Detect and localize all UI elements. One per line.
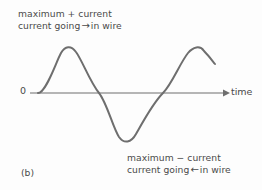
annotation-positive-line2: current going→in wire (18, 20, 122, 32)
sine-curve (38, 47, 215, 141)
annotation-negative-line2-prefix: current going (127, 164, 189, 175)
annotation-positive-line1: maximum + current (18, 8, 122, 20)
left-arrow-icon: ← (189, 164, 199, 176)
annotation-positive-current: maximum + current current going→in wire (18, 8, 122, 32)
annotation-positive-line2-prefix: current going (18, 20, 80, 31)
annotation-negative-line2: current going←in wire (127, 164, 231, 176)
annotation-negative-line2-suffix: in wire (200, 164, 231, 175)
x-axis-arrowhead (223, 89, 230, 96)
annotation-positive-line2-suffix: in wire (91, 20, 122, 31)
panel-label: (b) (21, 167, 34, 178)
annotation-negative-current: maximum − current current going←in wire (127, 152, 231, 176)
axis-x-label: time (231, 86, 252, 97)
right-arrow-icon: → (80, 20, 90, 32)
axis-origin-label: 0 (20, 85, 26, 96)
ac-current-waveform-figure: 0 time maximum + current current going→i… (0, 0, 262, 190)
annotation-negative-line1: maximum − current (127, 152, 231, 164)
